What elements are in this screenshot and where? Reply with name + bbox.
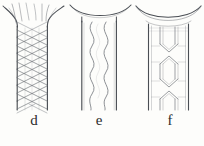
- panel-label-d: d: [14, 110, 54, 130]
- panel-d-drawing: [0, 0, 68, 112]
- panel-label-f: f: [150, 110, 190, 130]
- panel-f: [134, 0, 204, 112]
- panel-e: [68, 0, 134, 112]
- panel-f-drawing: [134, 0, 204, 112]
- panel-label-e: e: [79, 110, 119, 130]
- figure-root: d e f: [0, 0, 204, 146]
- panel-d: [0, 0, 68, 112]
- caption-row: d e f: [0, 110, 204, 146]
- panel-e-drawing: [68, 0, 134, 112]
